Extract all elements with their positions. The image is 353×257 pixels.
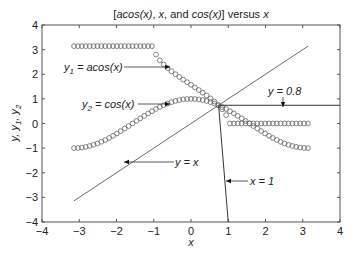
line-x-equals-1 <box>219 105 229 222</box>
y-tick-label: 1 <box>32 93 38 105</box>
y-tick-label: −3 <box>25 191 38 203</box>
y-tick-label: −1 <box>25 142 38 154</box>
annotation-label: y = 0.8 <box>267 85 302 97</box>
chart-title: [acos(x), x, and cos(x)] versus x <box>113 8 269 20</box>
x-tick-label: 3 <box>300 225 306 237</box>
x-tick-label: 1 <box>225 225 231 237</box>
y-tick-label: 4 <box>32 19 38 31</box>
annotation-label: y2 = cos(x) <box>81 98 135 113</box>
y-tick-label: 0 <box>32 118 38 130</box>
x-tick-label: −2 <box>110 225 123 237</box>
y-axis-label: y, y1, y2 <box>8 104 23 142</box>
y-tick-label: −2 <box>25 167 38 179</box>
x-axis-label: x <box>187 236 194 248</box>
annotation-label: y1 = acos(x) <box>63 61 123 76</box>
x-tick-label: 2 <box>262 225 268 237</box>
annotation-label: x = 1 <box>249 175 274 187</box>
x-tick-label: −1 <box>147 225 160 237</box>
annotation-label: y = x <box>174 156 199 168</box>
x-tick-label: 4 <box>337 225 343 237</box>
y-tick-label: 3 <box>32 44 38 56</box>
chart: [acos(x), x, and cos(x)] versus x −4−3−2… <box>0 0 353 257</box>
x-tick-label: −3 <box>73 225 86 237</box>
y-tick-label: −4 <box>25 216 38 228</box>
y-tick-label: 2 <box>32 68 38 80</box>
